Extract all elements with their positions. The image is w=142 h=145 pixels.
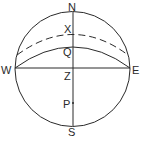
label-west: W — [1, 64, 12, 76]
p-point-dot — [72, 102, 74, 104]
label-q: Q — [63, 46, 72, 58]
label-north: N — [68, 1, 76, 13]
label-south: S — [68, 126, 75, 138]
label-east: E — [132, 64, 139, 76]
celestial-sphere-diagram: N X Q W E Z P S — [0, 0, 142, 145]
label-p: P — [63, 98, 70, 110]
label-x: X — [64, 23, 72, 35]
label-zenith: Z — [64, 70, 71, 82]
